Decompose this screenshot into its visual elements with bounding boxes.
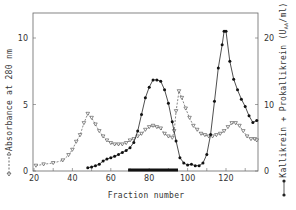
- open-triangle-marker: [203, 134, 207, 137]
- right-y-axis-title-group: Kallikrein + Prokallikrein (UAA/ml): [279, 2, 289, 177]
- open-triangle-marker: [74, 140, 78, 143]
- open-triangle-marker: [184, 107, 188, 110]
- filled-circle-marker: [148, 86, 151, 89]
- right-y-tick-label: 20: [264, 34, 274, 43]
- filled-circle-marker: [248, 114, 251, 117]
- open-triangle-marker: [241, 130, 245, 133]
- filled-circle-marker: [117, 153, 120, 156]
- left-y-axis-title-group: Absorbance at 280 nm: [5, 49, 14, 151]
- filled-circle-marker: [194, 164, 197, 167]
- filled-circle-marker: [201, 162, 204, 165]
- filled-circle-marker: [167, 102, 170, 105]
- open-triangle-marker: [144, 128, 148, 131]
- absorbance-series: [34, 90, 258, 168]
- left-y-axis-title: Absorbance at 280 nm: [5, 49, 14, 151]
- x-tick-label: 80: [144, 174, 154, 183]
- open-triangle-marker: [109, 142, 113, 145]
- filled-circle-marker: [105, 158, 108, 161]
- open-triangle-marker: [177, 90, 181, 93]
- plot-frame: [33, 13, 258, 171]
- open-triangle-marker: [180, 96, 184, 99]
- filled-circle-marker: [152, 78, 155, 81]
- chromatography-chart: 20406080100120 0510 01020 Fraction numbe…: [0, 0, 296, 210]
- filled-circle-marker: [232, 78, 235, 81]
- filled-circle-marker: [125, 149, 128, 152]
- open-triangle-marker: [199, 132, 203, 135]
- filled-circle-marker: [178, 156, 181, 159]
- open-triangle-marker: [124, 142, 128, 145]
- open-triangle-marker: [86, 112, 90, 115]
- filled-circle-marker: [86, 166, 89, 169]
- filled-circle-marker: [121, 151, 124, 154]
- filled-circle-marker: [186, 164, 189, 167]
- open-triangle-marker: [94, 123, 98, 126]
- x-tick-label: 20: [29, 174, 39, 183]
- open-triangle-marker: [245, 135, 249, 138]
- left-y-tick-label: 0: [23, 167, 28, 176]
- filled-circle-marker: [98, 163, 101, 166]
- filled-circle-icon: [282, 179, 285, 182]
- filled-circle-marker: [244, 105, 247, 108]
- right-y-axis-title: Kallikrein + Prokallikrein (UAA/ml): [279, 2, 289, 177]
- filled-circle-marker: [209, 133, 212, 136]
- x-tick-label: 60: [106, 174, 116, 183]
- open-triangle-marker: [71, 148, 75, 151]
- left-legend-symbol: [7, 152, 11, 176]
- open-triangle-marker: [67, 154, 71, 157]
- x-axis-title: Fraction number: [108, 191, 185, 200]
- filled-circle-marker: [90, 166, 93, 169]
- open-triangle-marker: [195, 128, 199, 131]
- filled-circle-marker: [217, 66, 220, 69]
- filled-circle-marker: [213, 100, 216, 103]
- filled-circle-marker: [129, 146, 132, 149]
- filled-circle-marker: [171, 120, 174, 123]
- filled-circle-marker: [94, 164, 97, 167]
- left-y-tick-label: 5: [23, 101, 28, 110]
- filled-circle-marker: [102, 160, 105, 163]
- filled-circle-marker: [198, 164, 201, 167]
- x-tick-label: 120: [218, 174, 233, 183]
- filled-circle-marker: [109, 156, 112, 159]
- right-y-tick-label: 0: [264, 167, 269, 176]
- left-y-tick-label: 10: [18, 34, 28, 43]
- open-triangle-marker: [226, 126, 230, 129]
- right-legend-symbol: [282, 179, 285, 196]
- open-triangle-marker: [78, 134, 82, 137]
- open-triangle-marker: [82, 122, 86, 125]
- filled-circle-marker: [132, 141, 135, 144]
- x-tick-label: 40: [67, 174, 77, 183]
- open-triangle-icon: [7, 152, 11, 155]
- open-triangle-marker: [238, 124, 242, 127]
- open-triangle-icon: [7, 173, 11, 176]
- open-triangle-marker: [167, 135, 171, 138]
- open-triangle-marker: [170, 136, 174, 139]
- open-triangle-marker: [51, 162, 55, 165]
- open-triangle-marker: [90, 116, 94, 119]
- filled-circle-marker: [155, 78, 158, 81]
- filled-circle-marker: [225, 30, 228, 33]
- filled-circle-marker: [240, 98, 243, 101]
- right-y-tick-label: 10: [264, 101, 274, 110]
- filled-circle-marker: [175, 140, 178, 143]
- open-triangle-marker: [121, 143, 125, 146]
- filled-circle-marker: [182, 162, 185, 165]
- filled-circle-marker: [221, 43, 224, 46]
- open-triangle-marker: [218, 132, 222, 135]
- open-triangle-marker: [174, 110, 178, 113]
- filled-circle-icon: [282, 193, 285, 196]
- filled-circle-marker: [190, 163, 193, 166]
- open-triangle-marker: [97, 130, 101, 133]
- filled-circle-marker: [163, 88, 166, 91]
- filled-circle-marker: [113, 155, 116, 158]
- kallikrein-series: [86, 30, 258, 169]
- open-triangle-marker: [188, 116, 192, 119]
- open-triangle-marker: [215, 134, 219, 137]
- filled-circle-marker: [255, 119, 258, 122]
- filled-circle-marker: [140, 113, 143, 116]
- filled-circle-marker: [159, 80, 162, 83]
- x-tick-label: 100: [180, 174, 195, 183]
- filled-circle-marker: [144, 96, 147, 99]
- open-triangle-marker: [249, 138, 253, 141]
- open-triangle-marker: [151, 124, 155, 127]
- filled-circle-marker: [228, 60, 231, 63]
